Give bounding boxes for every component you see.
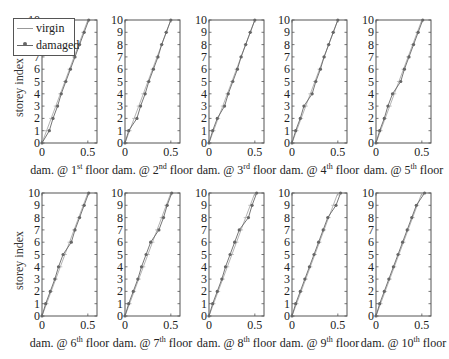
x-tick-label: 0.5 [414, 145, 429, 159]
data-point [169, 18, 172, 21]
data-point [421, 18, 424, 21]
data-point [64, 80, 67, 83]
data-point [383, 117, 386, 120]
y-tick-label: 3 [117, 99, 123, 113]
y-tick-label: 3 [201, 99, 207, 113]
data-point [378, 302, 381, 305]
data-point [40, 314, 43, 317]
data-point [139, 105, 142, 108]
data-point [374, 141, 377, 144]
y-tick-label: 9 [284, 25, 290, 39]
x-tick-label: 0 [39, 318, 45, 332]
y-tick-label: 10 [195, 13, 207, 27]
y-tick-label: 6 [34, 235, 40, 249]
y-tick-label: 2 [117, 284, 123, 298]
y-tick-label: 7 [368, 50, 374, 64]
y-tick-label: 2 [34, 284, 40, 298]
data-point [48, 129, 51, 132]
y-tick-label: 6 [284, 62, 290, 76]
data-point [332, 31, 335, 34]
y-tick-label: 8 [117, 38, 123, 52]
data-point [220, 278, 223, 281]
subplot-4: 01234567891000.5dam. @ 4th floor [278, 13, 359, 177]
data-point [317, 241, 320, 244]
subplot-2: 01234567891000.5dam. @ 2nd floor [111, 13, 193, 177]
y-tick-label: 7 [201, 223, 207, 237]
y-tick-label: 7 [117, 223, 123, 237]
damaged-marker-icon [23, 42, 27, 46]
y-tick-label: 4 [201, 87, 207, 101]
data-point [247, 216, 250, 219]
x-axis-label: dam. @ 2nd floor [112, 162, 193, 177]
data-point [157, 228, 160, 231]
data-point [403, 68, 406, 71]
data-point [136, 278, 139, 281]
data-point [399, 80, 402, 83]
y-tick-label: 9 [368, 198, 374, 212]
data-point [223, 105, 226, 108]
data-point [166, 204, 169, 207]
legend: virgin damaged [13, 18, 75, 56]
y-tick-label: 6 [34, 62, 40, 76]
data-point [299, 117, 302, 120]
subplot-10: 01234567891000.5dam. @ 10th floor [361, 186, 446, 350]
data-point [308, 265, 311, 268]
data-point [147, 80, 150, 83]
x-axis-label: dam. @ 3rd floor [197, 162, 277, 177]
y-tick-label: 3 [201, 272, 207, 286]
x-axis-label: dam. @ 9th floor [280, 335, 359, 350]
data-point [401, 241, 404, 244]
data-point [211, 302, 214, 305]
data-point [391, 92, 394, 95]
virgin-line-icon [17, 28, 33, 29]
y-tick-label: 4 [368, 87, 374, 101]
data-point [294, 129, 297, 132]
data-point [216, 117, 219, 120]
y-tick-label: 4 [117, 260, 123, 274]
subplot-6: 01234567891000.5dam. @ 6th floor [28, 186, 109, 350]
x-axis-label: dam. @ 8th floor [197, 335, 276, 350]
data-point [144, 253, 147, 256]
y-tick-label: 1 [34, 124, 40, 138]
legend-item-virgin: virgin [14, 20, 74, 36]
data-point [302, 105, 305, 108]
y-tick-label: 5 [34, 248, 40, 262]
data-point [249, 31, 252, 34]
data-point [70, 241, 73, 244]
data-point [53, 278, 56, 281]
y-tick-label: 10 [362, 13, 374, 27]
y-tick-label: 10 [278, 186, 290, 200]
x-tick-label: 0.5 [330, 145, 345, 159]
y-tick-label: 10 [28, 186, 40, 200]
data-point [149, 241, 152, 244]
y-tick-label: 10 [278, 13, 290, 27]
y-tick-label: 1 [117, 297, 123, 311]
y-tick-label: 1 [368, 124, 374, 138]
data-point [127, 129, 130, 132]
data-point [236, 68, 239, 71]
data-point [407, 55, 410, 58]
y-tick-label: 7 [34, 223, 40, 237]
y-tick-label: 9 [201, 198, 207, 212]
data-point [319, 68, 322, 71]
y-tick-label: 6 [201, 235, 207, 249]
y-tick-label: 4 [117, 87, 123, 101]
y-tick-label: 10 [362, 186, 374, 200]
y-tick-label: 2 [201, 284, 207, 298]
legend-label-virgin: virgin [36, 20, 64, 36]
y-tick-label: 2 [34, 111, 40, 125]
y-tick-label: 10 [111, 186, 123, 200]
y-tick-label: 7 [368, 223, 374, 237]
data-point [123, 141, 126, 144]
axes-box [125, 193, 180, 316]
y-tick-label: 2 [368, 284, 374, 298]
y-tick-label: 5 [284, 75, 290, 89]
y-tick-label: 3 [34, 272, 40, 286]
data-point [231, 80, 234, 83]
data-point [392, 265, 395, 268]
axes-box [376, 20, 431, 143]
y-tick-label: 8 [201, 38, 207, 52]
data-point [227, 92, 230, 95]
x-tick-label: 0.5 [330, 318, 345, 332]
x-tick-label: 0 [122, 318, 128, 332]
